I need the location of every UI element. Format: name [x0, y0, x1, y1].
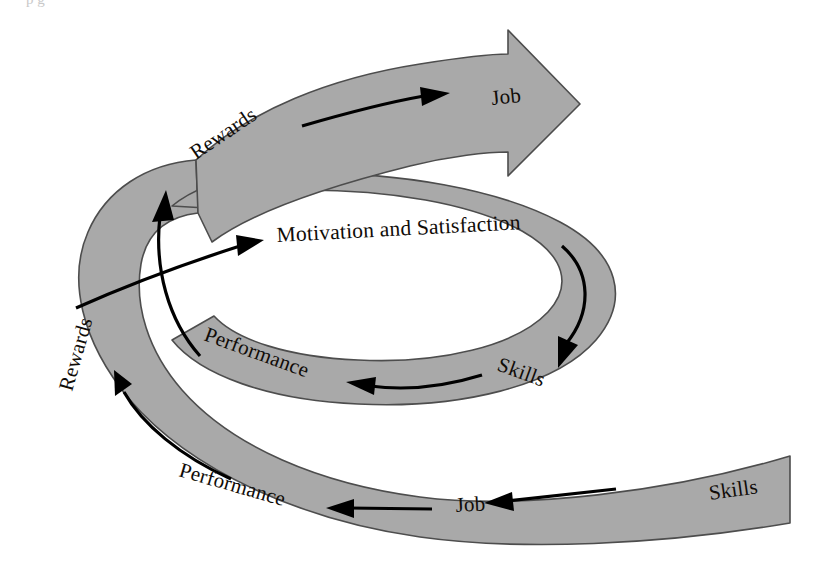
label-job-head: Job	[490, 83, 522, 110]
label-rewards-left: Rewards	[54, 315, 98, 394]
label-motivation-and-satisfaction: Motivation and Satisfaction	[276, 210, 521, 247]
figure-canvas: p g	[0, 0, 821, 564]
spiral-diagram-svg: Rewards Job Motivation and Satisfaction …	[0, 0, 821, 564]
label-job-bottom: Job	[455, 491, 486, 517]
